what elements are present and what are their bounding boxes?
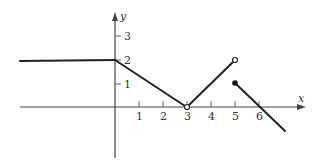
svg-text:2: 2 [160,110,167,123]
function-graph: x y 1 2 3 4 5 6 1 2 3 [0,0,326,163]
svg-text:5: 5 [232,110,239,123]
open-point-marker [233,58,238,63]
y-tick-labels: 1 2 3 [124,30,131,91]
closed-point-marker [232,80,238,86]
segment-constant [20,60,115,61]
svg-text:3: 3 [184,110,191,123]
function-segments [20,60,285,131]
y-axis-label: y [119,10,127,23]
svg-text:3: 3 [124,30,131,43]
x-tick-labels: 1 2 3 4 5 6 [136,110,263,123]
segment-increasing [189,62,233,105]
svg-text:1: 1 [136,110,143,123]
x-axis-label: x [298,92,305,105]
axes [20,18,300,158]
svg-text:4: 4 [208,110,215,123]
x-ticks [139,101,259,107]
y-axis-arrow-icon [112,12,118,21]
svg-text:6: 6 [256,110,263,123]
svg-text:2: 2 [124,54,131,67]
svg-text:1: 1 [124,78,131,91]
open-point-marker [185,105,190,110]
